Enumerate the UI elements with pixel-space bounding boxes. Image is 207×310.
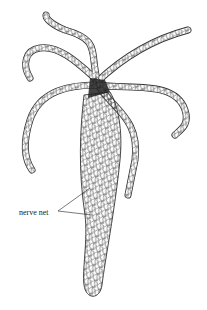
nerve-net-label: nerve net — [19, 208, 49, 217]
hydra-illustration — [0, 0, 207, 310]
body-column — [80, 92, 121, 296]
